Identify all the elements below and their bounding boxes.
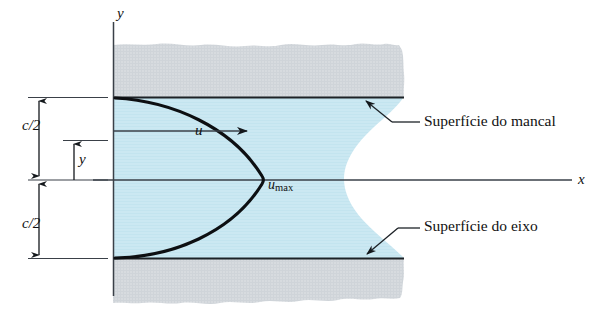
velocity-u-label: u	[195, 123, 203, 138]
shaft-solid-region	[113, 258, 404, 304]
figure-canvas: y x u umax c/2 c/2 y Superfície do manca…	[0, 0, 601, 318]
umax-base: u	[268, 177, 275, 192]
velocity-umax-label: umax	[268, 178, 293, 194]
fluid-film-region	[113, 97, 404, 258]
shaft-surface-label: Superfície do eixo	[424, 218, 538, 234]
bearing-solid-region	[113, 43, 404, 97]
x-axis-label: x	[578, 172, 585, 187]
height-from-center-label: y	[79, 152, 86, 167]
clearance-half-bottom-label: c/2	[22, 216, 40, 231]
bearing-surface-label: Superfície do mancal	[424, 113, 556, 129]
clearance-half-top-label: c/2	[22, 118, 40, 133]
diagram-graphics	[0, 0, 601, 318]
y-axis-label: y	[117, 6, 124, 21]
umax-subscript: max	[275, 182, 293, 193]
